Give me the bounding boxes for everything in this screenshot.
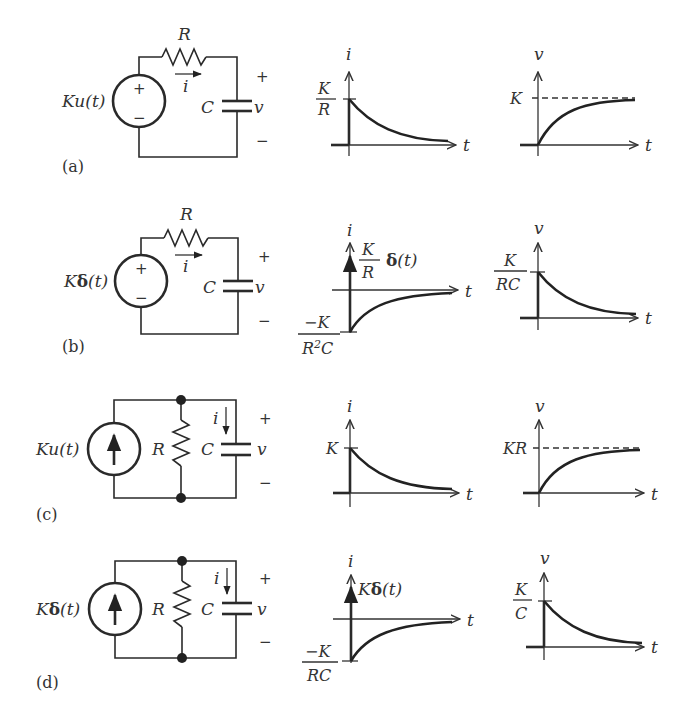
voltage-plus: + xyxy=(259,570,272,588)
current-label: i xyxy=(183,76,188,96)
capacitor-label: C xyxy=(201,599,214,619)
panel-d: Kδ(t) R C i v + − (d) i t Kδ(t) −K RC xyxy=(35,548,658,692)
voltage-label: v xyxy=(257,599,267,619)
impulse-label: δ(t) xyxy=(386,250,417,270)
current-plot-c: i t K xyxy=(325,396,473,507)
x-label: t xyxy=(651,484,658,504)
rise-curve xyxy=(539,450,640,493)
neg-level-denominator: R2C xyxy=(301,338,333,358)
y-label: i xyxy=(347,396,352,416)
decay-curve xyxy=(349,99,448,141)
level-numerator: K xyxy=(503,251,517,270)
node-dot xyxy=(177,556,187,566)
x-label: t xyxy=(645,308,652,328)
panel-label: (b) xyxy=(62,337,85,356)
current-plot-d: i t Kδ(t) −K RC xyxy=(302,551,474,685)
panel-label: (d) xyxy=(36,673,59,692)
x-label: t xyxy=(651,637,658,657)
source-plus: + xyxy=(135,260,148,278)
voltage-plus: + xyxy=(259,410,272,428)
node-dot xyxy=(176,395,186,405)
negative-rise-curve xyxy=(350,293,452,332)
panel-a: + − Ku(t) R i C v + − (a) i t K R xyxy=(61,24,652,176)
y-label: v xyxy=(534,218,544,238)
voltage-minus: − xyxy=(259,474,272,492)
panel-b: + − Kδ(t) R i C v + − (b) i t K R δ(t) −… xyxy=(62,204,652,358)
y-label: v xyxy=(540,548,550,568)
current-plot-b: i t K R δ(t) −K R2C xyxy=(298,220,472,358)
impulse-label: Kδ(t) xyxy=(357,579,402,599)
y-label: i xyxy=(348,551,353,571)
source-label: Kδ(t) xyxy=(35,599,80,619)
x-label: t xyxy=(467,610,474,630)
voltage-plot-c: v t KR xyxy=(502,396,658,507)
circuit-d: Kδ(t) R C i v + − (d) xyxy=(35,556,272,692)
resistor-label: R xyxy=(179,204,193,224)
voltage-plot-b: v t K RC xyxy=(494,218,652,330)
level-label: K xyxy=(509,89,523,108)
resistor-symbol xyxy=(173,420,189,466)
node-dot xyxy=(177,653,187,663)
wire xyxy=(206,57,237,101)
impulse-denominator: R xyxy=(361,263,374,282)
current-label: i xyxy=(213,408,218,428)
circuit-c: Ku(t) R C i v + − (c) xyxy=(35,395,272,524)
panel-label: (a) xyxy=(62,157,84,176)
x-label: t xyxy=(465,281,472,301)
decay-curve xyxy=(538,272,636,314)
resistor-label: R xyxy=(151,439,165,459)
current-label: i xyxy=(183,256,188,276)
y-label: v xyxy=(534,44,544,64)
capacitor-label: C xyxy=(201,439,214,459)
voltage-minus: − xyxy=(259,633,272,651)
circuit-b: + − Kδ(t) R i C v + − (b) xyxy=(62,204,271,356)
voltage-plus: + xyxy=(258,248,271,266)
voltage-minus: − xyxy=(258,312,271,330)
impulse-numerator: K xyxy=(361,240,375,259)
source-minus: − xyxy=(133,109,146,127)
x-label: t xyxy=(466,484,473,504)
panel-c: Ku(t) R C i v + − (c) i t K v xyxy=(35,395,658,524)
level-numerator: K xyxy=(514,580,528,599)
resistor-label: R xyxy=(177,24,191,44)
source-plus: + xyxy=(133,80,146,98)
neg-level-numerator: −K xyxy=(304,313,330,332)
decay-curve xyxy=(350,448,452,489)
resistor-symbol xyxy=(174,581,190,627)
circuit-a: + − Ku(t) R i C v + − (a) xyxy=(61,24,269,176)
y-label: i xyxy=(347,220,352,240)
negative-rise-curve xyxy=(351,622,452,661)
voltage-plus: + xyxy=(256,68,269,86)
wire xyxy=(139,111,237,157)
level-denominator: C xyxy=(515,604,527,623)
voltage-plot-d: v t K C xyxy=(513,548,658,660)
resistor-symbol xyxy=(162,49,206,65)
wire xyxy=(139,57,162,75)
level-denominator: RC xyxy=(495,275,520,294)
panel-label: (c) xyxy=(36,505,57,524)
neg-level-denominator: RC xyxy=(306,666,331,685)
source-label: Ku(t) xyxy=(35,439,79,459)
resistor-symbol xyxy=(164,230,208,246)
wire xyxy=(208,238,238,281)
decay-curve xyxy=(544,601,642,643)
voltage-label: v xyxy=(257,439,267,459)
rc-circuits-figure: + − Ku(t) R i C v + − (a) i t K R xyxy=(0,0,682,717)
resistor-label: R xyxy=(151,599,165,619)
y-label: i xyxy=(346,44,351,64)
level-label: KR xyxy=(502,439,527,458)
level-label: K xyxy=(325,439,339,458)
x-label: t xyxy=(645,135,652,155)
wire xyxy=(141,238,164,255)
source-label: Ku(t) xyxy=(61,91,105,111)
y-label: v xyxy=(535,396,545,416)
rise-curve xyxy=(538,100,635,145)
wire xyxy=(141,291,238,334)
level-denominator: R xyxy=(317,100,330,119)
source-minus: − xyxy=(135,289,148,307)
current-plot-a: i t K R xyxy=(316,44,470,156)
current-label: i xyxy=(214,568,219,588)
voltage-label: v xyxy=(254,97,264,117)
capacitor-label: C xyxy=(201,97,214,117)
voltage-plot-a: v t K xyxy=(509,44,652,156)
